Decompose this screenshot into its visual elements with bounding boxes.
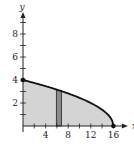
- endpoint-dot: [21, 78, 26, 83]
- x-tick-label: 4: [43, 130, 49, 140]
- representative-rectangle: [56, 90, 61, 126]
- x-axis-arrow: [122, 124, 128, 129]
- endpoint-dot: [111, 124, 116, 129]
- x-tick-label: 12: [85, 130, 96, 140]
- chart: 4812162468xy: [0, 0, 134, 144]
- shaded-region: [23, 80, 113, 126]
- y-axis-arrow: [21, 12, 26, 18]
- x-tick-label: 8: [65, 130, 71, 140]
- y-tick-label: 4: [12, 75, 18, 85]
- x-tick-label: 16: [108, 130, 120, 140]
- y-tick-label: 6: [12, 52, 18, 62]
- y-tick-label: 8: [12, 29, 18, 39]
- y-tick-label: 2: [12, 98, 18, 108]
- x-axis-label: x: [132, 121, 134, 131]
- y-axis-label: y: [18, 2, 25, 12]
